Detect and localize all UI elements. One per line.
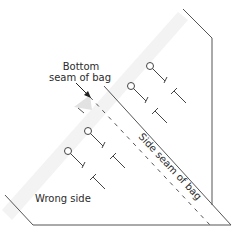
- stitch-line: [90, 97, 210, 225]
- arrow-icon: [76, 83, 91, 98]
- bottom-seam-mark: [78, 108, 84, 113]
- pin-tip-icon: [171, 88, 186, 103]
- pin-icon: [128, 83, 149, 104]
- bottom-seam-label-line1: Bottom: [63, 61, 100, 72]
- pin-tip-icon: [152, 108, 167, 123]
- pin-tip-icon: [110, 153, 125, 168]
- wrong-side-label: Wrong side: [35, 193, 91, 204]
- side-seam-label: Side seam of bag: [137, 131, 204, 202]
- pin-icon: [147, 63, 168, 84]
- pin-tip-icon: [90, 174, 105, 189]
- pin-icon: [65, 148, 86, 169]
- pin-icon: [85, 128, 106, 149]
- bottom-seam-label-line2: seam of bag: [49, 72, 111, 83]
- bag-seam-diagram: Bottom seam of bag Side seam of bag Wron…: [0, 0, 237, 230]
